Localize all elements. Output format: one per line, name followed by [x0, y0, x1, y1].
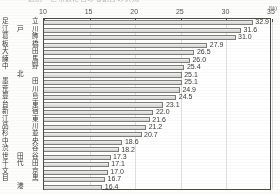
bar: [44, 58, 190, 63]
category-label-渋谷: 渋谷: [0, 146, 41, 152]
bar-value-label: 31.6: [243, 26, 257, 33]
bar-row: 24.9: [44, 87, 270, 93]
x-tick-10: 10: [39, 8, 47, 15]
bar-row: 26.0: [44, 57, 270, 63]
x-tick-15: 15: [85, 8, 93, 15]
category-label-足立: 足立: [0, 18, 41, 24]
x-tick-20: 20: [130, 8, 138, 15]
bar-value-label: 21.2: [149, 123, 163, 130]
x-tick-35: 35: [267, 8, 275, 15]
bar-value-label: 25.1: [184, 78, 198, 85]
bar: [44, 50, 194, 55]
bar-row: 31.6: [44, 27, 270, 33]
category-label-港: 港: [0, 183, 41, 189]
bar: [44, 28, 241, 33]
horizontal-bar-chart: (%) 101520253035 32.931.631.027.926.526.…: [0, 0, 280, 195]
bar: [44, 102, 163, 107]
category-label-杉並: 杉並: [0, 131, 41, 137]
bar: [44, 110, 153, 115]
bar-value-label: 24.5: [179, 93, 193, 100]
bar-value-label: 23.1: [166, 101, 180, 108]
category-label-目黒: 目黒: [0, 175, 41, 181]
bar-row: 17.0: [44, 169, 270, 175]
bar-row: 24.5: [44, 94, 270, 100]
bar-row: 25.1: [44, 79, 270, 85]
bar-value-label: 25.4: [187, 63, 201, 70]
bar: [44, 95, 176, 100]
bar-value-label: 18.2: [121, 146, 135, 153]
bar: [44, 35, 236, 40]
bar: [44, 72, 182, 77]
bar: [44, 132, 142, 137]
bar: [44, 170, 108, 175]
bar: [44, 125, 146, 130]
bar-value-label: 26.5: [197, 48, 211, 55]
bar-value-label: 24.9: [182, 86, 196, 93]
bar-value-label: 17.0: [110, 168, 124, 175]
category-label-新宿: 新宿: [0, 108, 41, 114]
gridline-35: [272, 19, 273, 189]
bar: [44, 43, 207, 48]
bar-row: 18.2: [44, 147, 270, 153]
bar-value-label: 31.0: [238, 33, 252, 40]
category-label-豊島: 豊島: [0, 93, 41, 99]
bar-row: 25.1: [44, 72, 270, 78]
bar: [44, 185, 102, 190]
bar: [44, 147, 119, 152]
bar-value-label: 27.9: [210, 41, 224, 48]
x-axis-tick-labels: 101520253035: [0, 8, 280, 17]
bar-value-label: 22.0: [156, 108, 170, 115]
bar-value-label: 25.1: [184, 71, 198, 78]
tickmark-35: [272, 19, 273, 22]
bar-row: 25.4: [44, 64, 270, 70]
bar: [44, 80, 182, 85]
category-label-葛飾: 葛飾: [0, 33, 41, 39]
bar-value-label: 17.1: [111, 160, 125, 167]
bar-value-label: 32.9: [255, 18, 269, 25]
bar-value-label: 26.0: [192, 56, 206, 63]
bar-row: 32.9: [44, 20, 270, 26]
bar-row: 18.6: [44, 139, 270, 145]
x-tick-30: 30: [221, 8, 229, 15]
bar-row: 16.4: [44, 184, 270, 190]
bar-row: 17.1: [44, 162, 270, 168]
bar-row: 26.5: [44, 50, 270, 56]
x-tick-25: 25: [176, 8, 184, 15]
bar-value-label: 16.4: [105, 183, 119, 190]
bar: [44, 162, 109, 167]
bar-value-label: 16.7: [108, 175, 122, 182]
plot-area: 32.931.631.027.926.526.025.425.125.124.9…: [43, 18, 271, 190]
bar: [44, 20, 253, 25]
bar-row: 20.7: [44, 132, 270, 138]
bar-value-label: 17.3: [113, 153, 127, 160]
category-label-中野: 中野: [0, 63, 41, 69]
category-label-大田: 大田: [0, 48, 41, 54]
bar-row: 16.7: [44, 177, 270, 183]
bar: [44, 87, 180, 92]
bar: [44, 140, 122, 145]
bar-row: 31.0: [44, 35, 270, 41]
category-label-千代田: 千代田: [0, 160, 41, 166]
bar-row: 27.9: [44, 42, 270, 48]
bar: [44, 177, 105, 182]
bar: [44, 155, 111, 160]
bar-value-label: 18.6: [125, 138, 139, 145]
bar: [44, 117, 150, 122]
category-label-墨田: 墨田: [0, 78, 41, 84]
bar-value-label: 21.6: [152, 116, 166, 123]
bar-value-label: 20.7: [144, 131, 158, 138]
bar: [44, 65, 184, 70]
bar-row: 17.3: [44, 154, 270, 160]
